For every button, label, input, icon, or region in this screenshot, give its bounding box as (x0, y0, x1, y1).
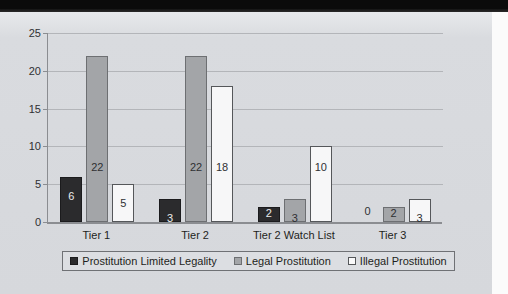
bar-value-label: 2 (258, 208, 280, 219)
y-tick-label-15: 15 (11, 104, 41, 115)
category-label-tier-1: Tier 1 (47, 229, 146, 241)
top-black-band (0, 0, 508, 12)
plot-area: 6225322182310023 (47, 33, 442, 222)
y-tick-15 (43, 109, 48, 110)
top-band-sheen (0, 9, 508, 12)
dark-square-swatch (70, 257, 78, 265)
legend-item-2[interactable]: Illegal Prostitution (348, 256, 447, 267)
bar-value-label: 22 (185, 162, 207, 173)
chart-page: 0510152025 6225322182310023 Tier 1Tier 2… (0, 0, 508, 294)
bar-tier-2-series-1[interactable] (185, 56, 207, 222)
bar-value-label: 22 (86, 162, 108, 173)
y-tick-label-20: 20 (11, 66, 41, 77)
chart-legend: Prostitution Limited LegalityLegal Prost… (62, 251, 455, 271)
y-tick-label-5: 5 (11, 179, 41, 190)
gray-square-swatch (234, 257, 242, 265)
white-square-swatch (348, 257, 356, 265)
y-tick-label-10: 10 (11, 141, 41, 152)
y-tick-10 (43, 146, 48, 147)
legend-item-0[interactable]: Prostitution Limited Legality (70, 256, 217, 267)
bar-value-label: 18 (211, 162, 233, 173)
bar-tier-2-watch-list-series-2[interactable] (310, 146, 332, 222)
x-axis-line (47, 222, 442, 224)
y-tick-20 (43, 71, 48, 72)
category-label-tier-2: Tier 2 (146, 229, 245, 241)
legend-item-label: Illegal Prostitution (360, 256, 447, 267)
y-tick-5 (43, 184, 48, 185)
y-tick-25 (43, 33, 48, 34)
gridline-25 (48, 33, 443, 34)
bar-value-label: 10 (310, 162, 332, 173)
legend-item-label: Legal Prostitution (246, 256, 331, 267)
bar-tier-2-series-2[interactable] (211, 86, 233, 222)
category-label-tier-3: Tier 3 (343, 229, 442, 241)
bar-value-label-zero: 0 (357, 206, 379, 217)
legend-item-1[interactable]: Legal Prostitution (234, 256, 331, 267)
bar-tier-1-series-1[interactable] (86, 56, 108, 222)
y-tick-label-0: 0 (11, 217, 41, 228)
right-margin-strip (492, 12, 508, 294)
bar-value-label: 6 (60, 191, 82, 202)
y-tick-label-25: 25 (11, 28, 41, 39)
bar-value-label: 2 (383, 208, 405, 219)
bar-value-label: 5 (112, 198, 134, 209)
category-label-tier-2-watch-list: Tier 2 Watch List (245, 229, 344, 241)
legend-item-label: Prostitution Limited Legality (82, 256, 217, 267)
